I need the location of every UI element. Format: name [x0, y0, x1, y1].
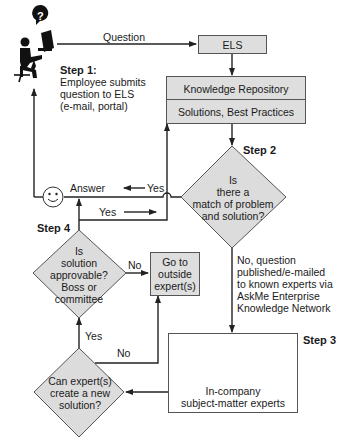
- experts-line-1: In-company: [169, 385, 297, 397]
- yes-to-repo-label: Yes: [99, 206, 116, 218]
- new-solution-line-1: Can expert(s): [48, 375, 112, 387]
- els-label: ELS: [223, 39, 243, 51]
- step4-line-5: committee: [50, 293, 108, 305]
- new-solution-question: Can expert(s) create a new solution?: [48, 375, 112, 411]
- yes-to-repo-arrow: [79, 124, 167, 220]
- step1-line-2: question to ELS: [60, 88, 134, 100]
- no-new-label: No: [117, 347, 130, 359]
- no-path-line-1: No, question: [237, 254, 296, 266]
- yes-approve-label: Yes: [85, 330, 102, 342]
- svg-text:?: ?: [37, 10, 44, 22]
- no-path-line-4: AskMe Enterprise: [237, 290, 320, 302]
- outside-expert-box: Go to outside expert(s): [150, 252, 200, 296]
- no-outside-label: No: [128, 259, 141, 271]
- els-box: ELS: [198, 35, 267, 54]
- new-solution-line-2: create a new: [48, 387, 112, 399]
- step1-heading: Step 1:: [60, 64, 97, 76]
- answer-label: Answer: [70, 182, 105, 194]
- experts-line-2: subject-matter experts: [169, 397, 297, 409]
- outside-line-1: Go to: [162, 256, 188, 268]
- step2-line-2: there a: [192, 186, 273, 198]
- smiley-face-icon: [43, 187, 63, 207]
- employee-at-computer-icon: ?: [14, 5, 54, 82]
- step3-heading: Step 3: [303, 334, 336, 346]
- step2-heading: Step 2: [243, 144, 276, 156]
- step2-question: Is there a match of problem and solution…: [192, 174, 273, 222]
- outside-line-3: expert(s): [154, 280, 195, 292]
- step2-line-3: match of problem: [192, 198, 273, 210]
- step4-line-4: Boss or: [50, 281, 108, 293]
- no-path-line-3: to known experts via: [237, 278, 333, 290]
- new-solution-line-3: solution?: [48, 399, 112, 411]
- step1-line-3: (e-mail, portal): [60, 100, 128, 112]
- yes-answer-label: Yes: [147, 182, 164, 194]
- no-path-line-2: published/e-mailed: [237, 266, 325, 278]
- question-label: Question: [103, 31, 145, 43]
- step2-line-1: Is: [192, 174, 273, 186]
- step4-line-3: approvable?: [50, 269, 108, 281]
- experts-box: In-company subject-matter experts: [168, 333, 298, 413]
- step4-line-2: solution: [50, 257, 108, 269]
- step1-line-1: Employee submits: [60, 76, 146, 88]
- repository-box-top: Knowledge Repository: [166, 76, 306, 100]
- step4-heading: Step 4: [37, 222, 70, 234]
- step2-line-4: and solution?: [192, 210, 273, 222]
- step4-question: Is solution approvable? Boss or committe…: [50, 245, 108, 305]
- step4-line-1: Is: [50, 245, 108, 257]
- repository-box-bottom: Solutions, Best Practices: [166, 99, 306, 124]
- outside-line-2: outside: [158, 268, 192, 280]
- repository-subtitle: Solutions, Best Practices: [178, 106, 294, 118]
- repository-title: Knowledge Repository: [183, 83, 288, 95]
- no-path-line-5: Knowledge Network: [237, 302, 330, 314]
